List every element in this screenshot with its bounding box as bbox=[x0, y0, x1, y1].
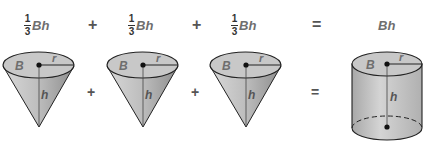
svg-text:r: r bbox=[156, 52, 161, 64]
svg-text:h: h bbox=[41, 88, 48, 102]
cone-1: B r h bbox=[3, 52, 74, 127]
svg-text:h: h bbox=[248, 88, 255, 102]
svg-text:B: B bbox=[366, 58, 375, 72]
equals-sign: = bbox=[311, 84, 319, 100]
svg-text:B: B bbox=[15, 59, 24, 73]
svg-text:h: h bbox=[145, 88, 152, 102]
svg-text:B: B bbox=[119, 59, 128, 73]
plus-sign: + bbox=[87, 84, 95, 100]
svg-text:r: r bbox=[52, 52, 57, 64]
figures: B r h + B r h + B r h = B r h bbox=[0, 0, 433, 152]
svg-text:B: B bbox=[222, 59, 231, 73]
cone-2: B r h bbox=[107, 52, 178, 127]
svg-text:r: r bbox=[259, 52, 264, 64]
cylinder: B r h bbox=[352, 51, 422, 140]
svg-text:h: h bbox=[390, 90, 397, 104]
cone-3: B r h bbox=[210, 52, 281, 127]
plus-sign: + bbox=[191, 84, 199, 100]
svg-text:r: r bbox=[399, 51, 404, 63]
